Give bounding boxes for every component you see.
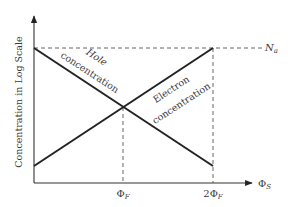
x-axis-label: ΦS bbox=[258, 178, 271, 191]
band-diagram: Concentration in Log Scale Na Hole conce… bbox=[0, 0, 288, 207]
tick-two-phi-f: 2ΦF bbox=[203, 188, 224, 201]
tick-phi-f: ΦF bbox=[116, 188, 130, 201]
y-axis-label: Concentration in Log Scale bbox=[13, 36, 24, 168]
na-label: Na bbox=[264, 42, 278, 55]
